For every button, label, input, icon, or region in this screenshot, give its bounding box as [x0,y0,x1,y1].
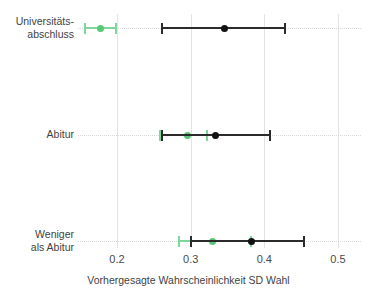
interval-black-row-0 [0,20,377,36]
x-tick-label-0.3: 0.3 [183,253,198,265]
point-estimate-dot [221,25,228,32]
interval-black-row-1 [0,127,377,143]
interval-cap-high [284,23,286,34]
interval-cap-low [190,236,192,247]
point-estimate-dot [248,238,255,245]
x-axis-title: Vorhergesagte Wahrscheinlichkeit SD Wahl [0,274,377,286]
forest-plot-chart: Universitäts- abschlussAbiturWeniger als… [0,0,377,297]
plot-area: Universitäts- abschlussAbiturWeniger als… [0,0,377,260]
x-tick-label-0.4: 0.4 [257,253,272,265]
x-tick-label-0.5: 0.5 [330,253,345,265]
interval-cap-high [303,236,305,247]
interval-black-row-2 [0,233,377,249]
interval-cap-high [269,130,271,141]
interval-cap-low [161,23,163,34]
interval-cap-low [161,130,163,141]
x-tick-label-0.2: 0.2 [109,253,124,265]
point-estimate-dot [212,132,219,139]
